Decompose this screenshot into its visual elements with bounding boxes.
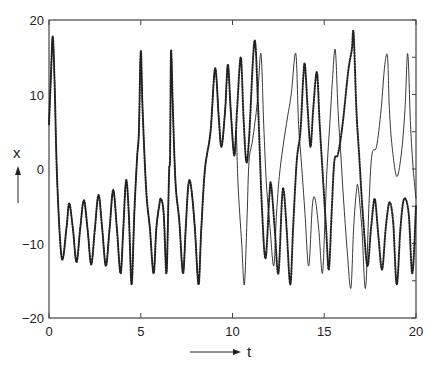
x-axis-label: t	[247, 343, 252, 360]
series-dotted-line	[49, 31, 416, 285]
y-tick-label: 0	[37, 162, 44, 177]
axis-ticks	[49, 20, 416, 318]
y-axis-arrowhead-icon	[15, 166, 21, 175]
x-axis-arrowhead-icon	[233, 349, 241, 355]
x-tick-label: 20	[409, 324, 423, 339]
x-tick-label: 0	[45, 324, 52, 339]
chart-figure: −20−1001020 05101520 t x	[0, 0, 436, 371]
y-tick-labels: −20−1001020	[22, 13, 44, 326]
y-tick-label: −10	[22, 237, 44, 252]
y-tick-label: 10	[30, 88, 44, 103]
x-axis-label-group: t	[190, 343, 252, 360]
series-layer	[49, 31, 416, 289]
x-tick-label: 10	[225, 324, 239, 339]
x-tick-label: 15	[317, 324, 331, 339]
x-tick-labels: 05101520	[45, 324, 423, 339]
y-tick-label: 20	[30, 13, 44, 28]
plot-frame	[49, 20, 416, 318]
y-axis-label: x	[13, 144, 21, 161]
x-tick-label: 5	[137, 324, 144, 339]
y-tick-label: −20	[22, 311, 44, 326]
y-axis-label-group: x	[13, 144, 21, 203]
